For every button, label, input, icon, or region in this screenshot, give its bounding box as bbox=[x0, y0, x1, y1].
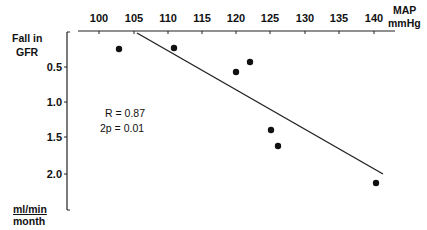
plot-area bbox=[0, 0, 427, 230]
data-point bbox=[275, 143, 281, 149]
regression-line bbox=[137, 33, 383, 174]
data-point bbox=[268, 127, 274, 133]
data-point bbox=[116, 46, 122, 52]
data-points bbox=[116, 45, 379, 186]
data-point bbox=[171, 45, 177, 51]
data-point bbox=[247, 59, 253, 65]
data-point bbox=[373, 180, 379, 186]
data-point bbox=[233, 69, 239, 75]
